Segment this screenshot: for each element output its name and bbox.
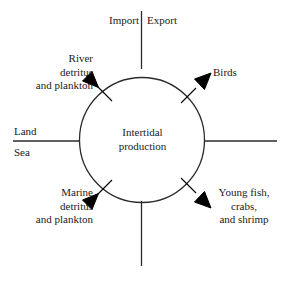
birds-label: Birds	[213, 66, 283, 80]
intertidal-production-label: Intertidal production	[95, 125, 190, 153]
young-fish-label: Young fish, crabs, and shrimp	[205, 186, 283, 227]
marine-detritus-label: Marine detritus and plankton	[0, 186, 93, 227]
river-detritus-label: River detritus and plankton	[0, 52, 93, 93]
export-label: Export	[147, 14, 267, 28]
sea-label: Sea	[14, 146, 74, 160]
import-label: Import	[0, 14, 139, 28]
birds-arrow-icon	[181, 73, 211, 103]
intertidal-production-diagram: Import Export River detritus and plankto…	[0, 0, 283, 281]
land-label: Land	[14, 125, 74, 139]
